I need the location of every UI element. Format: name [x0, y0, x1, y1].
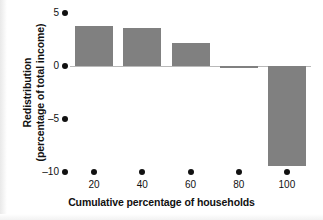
y-tick-label: 5 [53, 8, 59, 18]
y-tick: –10 [36, 166, 68, 178]
plot-area [70, 13, 311, 172]
y-tick: –5 [36, 113, 68, 125]
bar [75, 26, 113, 66]
y-tick-marker-dot [62, 63, 68, 69]
bar [268, 66, 306, 166]
y-tick-marker-dot [62, 169, 68, 175]
y-axis-title-line2: (percentage of total income) [33, 8, 46, 178]
x-tick-label: 80 [219, 179, 259, 190]
x-tick-marker-dot [236, 169, 242, 175]
x-tick-label: 20 [74, 179, 114, 190]
bar [220, 66, 258, 68]
y-tick-marker-dot [62, 10, 68, 16]
bar [172, 43, 210, 66]
y-tick-label: –10 [42, 167, 59, 177]
x-tick-label: 60 [171, 179, 211, 190]
y-tick-label: 0 [53, 61, 59, 71]
y-axis-title-line1: Redistribution [21, 8, 34, 178]
y-tick-marker-dot [62, 116, 68, 122]
y-tick-label: –5 [48, 114, 59, 124]
x-tick-marker-dot [139, 169, 145, 175]
y-tick: 0 [36, 60, 68, 72]
x-tick-label: 40 [122, 179, 162, 190]
x-tick-label: 100 [267, 179, 307, 190]
bar [123, 28, 161, 66]
page-scan-edge-left [0, 0, 7, 220]
x-tick-marker-dot [284, 169, 290, 175]
bar-chart-figure: Redistribution (percentage of total inco… [0, 0, 323, 220]
y-tick: 5 [36, 7, 68, 19]
x-tick-marker-dot [91, 169, 97, 175]
x-axis-title: Cumulative percentage of households [0, 196, 323, 208]
x-tick-marker-dot [188, 169, 194, 175]
page-scan-edge-bottom [0, 214, 323, 220]
y-axis-title: Redistribution (percentage of total inco… [21, 8, 46, 178]
